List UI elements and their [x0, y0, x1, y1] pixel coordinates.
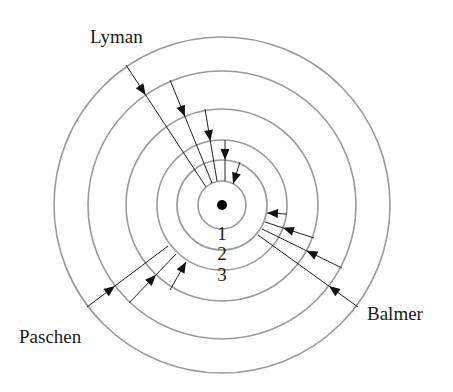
series-label-lyman: Lyman — [90, 26, 143, 47]
balmer-transition-5-to-2 — [262, 229, 342, 268]
series-label-paschen: Paschen — [19, 326, 82, 347]
arrowhead-icon — [232, 172, 241, 184]
arrowhead-icon — [221, 149, 230, 160]
arrowhead-icon — [204, 129, 213, 141]
series-balmer — [258, 209, 358, 307]
arrowhead-icon — [267, 209, 278, 218]
series-labels: LymanBalmerPaschen — [19, 26, 424, 347]
arrowhead-icon — [136, 83, 146, 95]
series-lyman — [126, 65, 241, 187]
paschen-transition-6-to-3 — [87, 246, 168, 307]
arrowhead-icon — [283, 227, 295, 236]
arrowhead-icon — [329, 286, 341, 296]
energy-level-labels: 123 — [217, 223, 227, 285]
level-label-2: 2 — [217, 243, 227, 264]
series-label-balmer: Balmer — [367, 303, 424, 324]
nucleus — [217, 200, 227, 210]
arrowhead-icon — [177, 105, 185, 117]
arrowhead-icon — [177, 262, 186, 274]
arrowhead-icon — [103, 286, 114, 296]
level-label-1: 1 — [217, 223, 227, 244]
level-label-3: 3 — [217, 264, 227, 285]
balmer-transition-6-to-2 — [258, 235, 358, 307]
series-paschen — [87, 246, 186, 307]
bohr-model-diagram: 123 LymanBalmerPaschen — [0, 0, 453, 392]
